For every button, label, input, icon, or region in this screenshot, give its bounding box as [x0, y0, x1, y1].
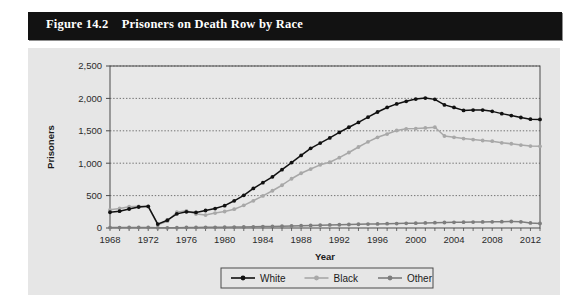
figure-root: Figure 14.2 Prisoners on Death Row by Ra… — [0, 0, 587, 303]
x-axis-tick-label: 1996 — [367, 234, 388, 245]
data-point — [357, 222, 361, 226]
data-point — [213, 225, 217, 229]
data-point — [414, 97, 418, 101]
x-axis-tick-label: 1980 — [214, 234, 235, 245]
y-axis-tick-label: 1,500 — [78, 125, 102, 136]
data-point — [251, 199, 255, 203]
legend-swatch-marker — [388, 276, 393, 281]
data-point — [481, 139, 485, 143]
data-point — [433, 97, 437, 101]
data-point — [471, 108, 475, 112]
data-point — [347, 125, 351, 129]
data-point — [519, 220, 523, 224]
legend-swatch-marker — [314, 276, 319, 281]
data-point — [529, 144, 533, 148]
data-point — [414, 127, 418, 131]
data-point — [328, 136, 332, 140]
data-point — [271, 224, 275, 228]
data-point — [395, 222, 399, 226]
data-point — [309, 224, 313, 228]
y-axis-tick-label: 500 — [86, 190, 102, 201]
data-point — [337, 223, 341, 227]
data-point — [423, 221, 427, 225]
data-point — [462, 108, 466, 112]
data-point — [385, 106, 389, 110]
data-point — [118, 226, 122, 230]
data-point — [443, 103, 447, 107]
x-axis-tick-label: 1972 — [138, 234, 159, 245]
data-point — [366, 115, 370, 119]
data-point — [443, 134, 447, 138]
data-point — [175, 226, 179, 230]
data-point — [261, 181, 265, 185]
data-point — [232, 225, 236, 229]
data-point — [529, 221, 533, 225]
data-point — [337, 131, 341, 135]
data-point — [223, 225, 227, 229]
data-point — [404, 99, 408, 103]
data-point — [490, 139, 494, 143]
data-point — [500, 141, 504, 145]
x-axis-tick-label: 2004 — [443, 234, 464, 245]
data-point — [433, 125, 437, 129]
x-axis-tick-label: 1968 — [99, 234, 120, 245]
data-point — [452, 106, 456, 110]
data-point — [165, 218, 169, 222]
data-point — [271, 175, 275, 179]
data-point — [299, 171, 303, 175]
data-point — [127, 226, 131, 230]
legend-label: Black — [334, 273, 359, 284]
data-point — [357, 120, 361, 124]
data-point — [385, 222, 389, 226]
data-point — [433, 221, 437, 225]
x-axis-tick-label: 2012 — [520, 234, 541, 245]
data-point — [462, 220, 466, 224]
data-point — [404, 221, 408, 225]
line-chart: 05001,0001,5002,0002,5001968197219761980… — [28, 48, 560, 295]
data-point — [395, 102, 399, 106]
data-point — [156, 222, 160, 226]
data-point — [347, 151, 351, 155]
data-point — [232, 207, 236, 211]
data-point — [452, 220, 456, 224]
data-point — [271, 189, 275, 193]
data-point — [232, 199, 236, 203]
data-point — [404, 127, 408, 131]
data-point — [290, 161, 294, 165]
data-point — [204, 225, 208, 229]
data-point — [490, 220, 494, 224]
data-point — [118, 209, 122, 213]
data-point — [366, 222, 370, 226]
data-point — [376, 135, 380, 139]
data-point — [318, 223, 322, 227]
data-point — [376, 110, 380, 114]
chart-panel: 05001,0001,5002,0002,5001968197219761980… — [28, 48, 560, 295]
data-point — [194, 211, 198, 215]
data-point — [385, 132, 389, 136]
x-axis-title: Year — [315, 251, 335, 262]
data-point — [223, 204, 227, 208]
data-point — [337, 156, 341, 160]
data-point — [280, 183, 284, 187]
data-point — [194, 226, 198, 230]
plot-area-background — [110, 66, 540, 228]
data-point — [290, 177, 294, 181]
data-point — [204, 213, 208, 217]
data-point — [280, 168, 284, 172]
data-point — [251, 187, 255, 191]
data-point — [481, 108, 485, 112]
data-point — [185, 210, 189, 214]
data-point — [204, 209, 208, 213]
figure-title-bar: Figure 14.2 Prisoners on Death Row by Ra… — [28, 12, 562, 40]
data-point — [318, 141, 322, 145]
data-point — [509, 142, 513, 146]
data-point — [519, 116, 523, 120]
data-point — [490, 109, 494, 113]
data-point — [137, 226, 141, 230]
x-axis-tick-label: 1976 — [176, 234, 197, 245]
data-point — [529, 117, 533, 121]
data-point — [299, 154, 303, 158]
y-axis-tick-label: 2,000 — [78, 93, 102, 104]
data-point — [509, 114, 513, 118]
data-point — [395, 129, 399, 133]
